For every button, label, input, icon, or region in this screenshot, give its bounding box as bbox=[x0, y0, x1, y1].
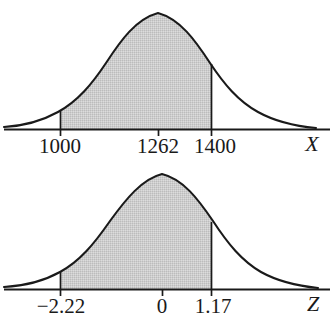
tick-label-1400: 1400 bbox=[194, 134, 236, 159]
axis-variable-label-z: Z bbox=[307, 291, 319, 317]
chart-panel-x: 1000 1262 1400 X bbox=[0, 0, 336, 162]
shaded-area-z bbox=[60, 163, 212, 289]
tick-label-1000: 1000 bbox=[39, 134, 81, 159]
tick-label-1262: 1262 bbox=[137, 134, 179, 159]
tick-label-zero: 0 bbox=[157, 294, 168, 319]
shaded-area-x bbox=[60, 0, 212, 129]
tick-label-neg-2-22: −2.22 bbox=[37, 294, 86, 319]
normal-distribution-figure: 1000 1262 1400 X bbox=[0, 0, 336, 325]
tick-label-1-17: 1.17 bbox=[195, 294, 232, 319]
chart-panel-z: −2.22 0 1.17 Z bbox=[0, 163, 336, 325]
axis-variable-label-x: X bbox=[305, 131, 318, 157]
